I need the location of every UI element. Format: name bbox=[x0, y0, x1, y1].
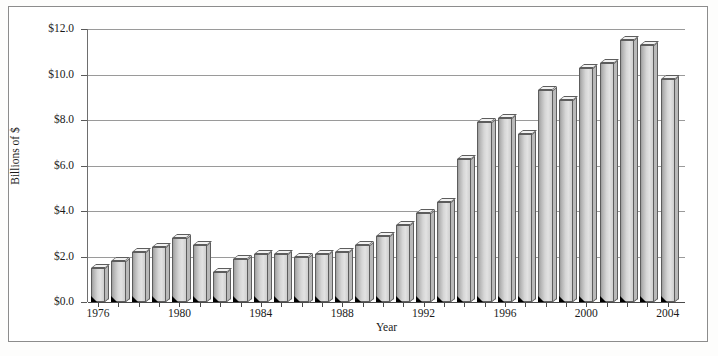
x-axis-title: Year bbox=[88, 321, 685, 333]
bar-base-shadow bbox=[376, 296, 382, 302]
bar-1988 bbox=[335, 248, 349, 302]
bar-front-face bbox=[254, 254, 268, 302]
bar-base-shadow bbox=[661, 296, 667, 302]
y-tick-label: $2.0 bbox=[22, 251, 74, 262]
bar-front-face bbox=[172, 238, 186, 302]
bar-base-shadow bbox=[437, 296, 443, 302]
bar-base-shadow bbox=[111, 296, 117, 302]
bar-front-face bbox=[335, 252, 349, 302]
bar-side-face bbox=[492, 119, 496, 302]
bar-1982 bbox=[213, 268, 227, 302]
bar-side-face bbox=[593, 65, 597, 302]
bar-1989 bbox=[355, 241, 369, 302]
bar-1981 bbox=[193, 241, 207, 302]
bar-front-face bbox=[477, 122, 491, 302]
bar-1998 bbox=[538, 86, 552, 302]
bar-2002 bbox=[620, 36, 634, 302]
bar-base-shadow bbox=[518, 296, 524, 302]
bar-1986 bbox=[294, 253, 308, 303]
x-tick-label: 1996 bbox=[483, 307, 527, 319]
y-tick-label: $0.0 bbox=[22, 296, 74, 307]
y-tick-mark bbox=[81, 257, 87, 258]
x-tick-mark bbox=[118, 302, 119, 307]
y-tick-mark bbox=[81, 75, 87, 76]
bar-1979 bbox=[152, 243, 166, 302]
bar-side-face bbox=[268, 251, 272, 302]
bar-base-shadow bbox=[640, 296, 646, 302]
bar-side-face bbox=[105, 265, 109, 302]
bar-base-shadow bbox=[274, 296, 280, 302]
bar-front-face bbox=[661, 79, 675, 302]
bar-front-face bbox=[579, 68, 593, 302]
x-tick-mark bbox=[546, 302, 547, 307]
bar-front-face bbox=[538, 90, 552, 302]
bar-base-shadow bbox=[233, 296, 239, 302]
bar-base-shadow bbox=[355, 296, 361, 302]
x-tick-label: 2000 bbox=[564, 307, 608, 319]
bar-base-shadow bbox=[132, 296, 138, 302]
x-tick-label: 1988 bbox=[320, 307, 364, 319]
y-tick-label: $4.0 bbox=[22, 205, 74, 216]
bar-1990 bbox=[376, 232, 390, 302]
y-tick: $6.0 bbox=[22, 160, 74, 171]
bar-side-face bbox=[126, 258, 130, 302]
bar-1994 bbox=[457, 155, 471, 302]
bar-1985 bbox=[274, 250, 288, 302]
bar-base-shadow bbox=[620, 296, 626, 302]
bar-front-face bbox=[315, 254, 329, 302]
bar-front-face bbox=[152, 247, 166, 302]
bar-2000 bbox=[579, 64, 593, 302]
bar-side-face bbox=[553, 87, 557, 302]
bar-front-face bbox=[437, 202, 451, 302]
bar-1992 bbox=[416, 209, 430, 302]
x-tick-mark bbox=[525, 302, 526, 307]
bar-side-face bbox=[309, 253, 313, 302]
bar-1996 bbox=[498, 114, 512, 302]
bar-1978 bbox=[132, 248, 146, 302]
bar-side-face bbox=[431, 210, 435, 302]
bar-side-face bbox=[451, 199, 455, 302]
y-tick-label: $8.0 bbox=[22, 114, 74, 125]
bar-base-shadow bbox=[193, 296, 199, 302]
x-tick-label: 1980 bbox=[157, 307, 201, 319]
bar-base-shadow bbox=[477, 296, 483, 302]
bar-2001 bbox=[600, 59, 614, 302]
bar-front-face bbox=[620, 40, 634, 302]
bar-base-shadow bbox=[91, 296, 97, 302]
bar-side-face bbox=[512, 115, 516, 302]
x-tick-mark bbox=[220, 302, 221, 307]
bar-base-shadow bbox=[396, 296, 402, 302]
bar-side-face bbox=[573, 96, 577, 302]
x-tick-mark bbox=[200, 302, 201, 307]
y-tick-mark bbox=[81, 120, 87, 121]
bar-front-face bbox=[498, 118, 512, 302]
bar-2003 bbox=[640, 41, 654, 302]
x-tick-label: 1976 bbox=[76, 307, 120, 319]
bar-1980 bbox=[172, 234, 186, 302]
bar-front-face bbox=[274, 254, 288, 302]
bar-1997 bbox=[518, 130, 532, 302]
bar-1984 bbox=[254, 250, 268, 302]
bar-side-face bbox=[248, 256, 252, 302]
bar-base-shadow bbox=[213, 296, 219, 302]
x-tick-mark bbox=[281, 302, 282, 307]
bar-base-shadow bbox=[498, 296, 504, 302]
bar-base-shadow bbox=[600, 296, 606, 302]
bar-side-face bbox=[634, 37, 638, 302]
bar-front-face bbox=[355, 245, 369, 302]
bar-1987 bbox=[315, 250, 329, 302]
bar-side-face bbox=[187, 235, 191, 302]
bar-side-face bbox=[532, 131, 536, 302]
bar-side-face bbox=[410, 222, 414, 302]
bar-side-face bbox=[349, 249, 353, 302]
bar-base-shadow bbox=[416, 296, 422, 302]
x-tick-label: 1984 bbox=[239, 307, 283, 319]
x-tick-mark bbox=[464, 302, 465, 307]
bar-1995 bbox=[477, 118, 491, 302]
bar-base-shadow bbox=[172, 296, 178, 302]
bar-base-shadow bbox=[152, 296, 158, 302]
bar-side-face bbox=[654, 42, 658, 302]
x-tick-label: 2004 bbox=[646, 307, 690, 319]
y-tick-label: $6.0 bbox=[22, 160, 74, 171]
y-tick-mark bbox=[81, 29, 87, 30]
